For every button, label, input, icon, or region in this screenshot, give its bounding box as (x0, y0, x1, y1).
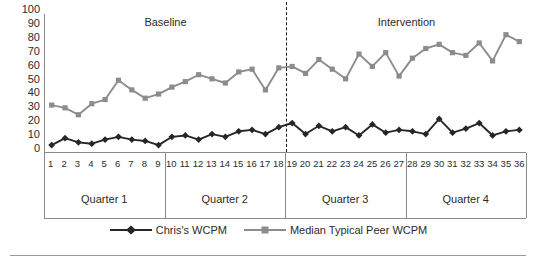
data-point-marker (437, 42, 442, 47)
data-point-marker (128, 136, 135, 143)
y-tick-label: 80 (28, 32, 40, 43)
data-point-marker (209, 76, 214, 81)
data-point-marker (316, 57, 321, 62)
phase-change-line (286, 2, 287, 152)
data-point-marker (490, 58, 495, 63)
data-point-marker (62, 135, 69, 142)
quarter-separator (165, 153, 166, 218)
data-point-marker (48, 142, 55, 149)
data-point-marker (516, 127, 523, 134)
y-tick-label: 90 (28, 18, 40, 29)
data-point-marker (182, 132, 189, 139)
quarter-separator (44, 153, 45, 218)
y-axis: 1009080706050403020100 (8, 9, 40, 159)
data-point-marker (103, 97, 108, 102)
data-point-marker (62, 105, 67, 110)
y-tick-label: 30 (28, 101, 40, 112)
data-point-marker (49, 102, 54, 107)
legend-entry-peer: Median Typical Peer WCPM (243, 224, 427, 236)
data-point-marker (76, 112, 81, 117)
data-point-marker (75, 139, 82, 146)
data-point-marker (356, 51, 361, 56)
data-point-marker (129, 87, 134, 92)
quarter-label: Quarter 4 (443, 193, 489, 205)
data-point-marker (329, 128, 336, 135)
data-point-marker (250, 67, 255, 72)
quarter-label: Quarter 2 (202, 193, 248, 205)
data-point-marker (183, 79, 188, 84)
plot-area: Baseline Intervention (44, 14, 526, 153)
data-point-marker (423, 46, 428, 51)
data-point-marker (343, 76, 348, 81)
legend-label-chris: Chris's WCPM (156, 224, 227, 236)
data-point-marker (156, 91, 161, 96)
data-point-marker (275, 124, 282, 131)
data-point-marker (209, 131, 216, 138)
chart-figure: 1009080706050403020100 Baseline Interven… (0, 0, 536, 264)
legend-label-peer: Median Typical Peer WCPM (290, 224, 427, 236)
data-point-marker (88, 140, 95, 147)
data-point-marker (236, 69, 241, 74)
data-point-marker (196, 72, 201, 77)
phase-label-intervention: Intervention (378, 16, 435, 28)
data-point-marker (142, 138, 149, 145)
quarter-label: Quarter 3 (322, 193, 368, 205)
quarter-separator (285, 153, 286, 218)
data-point-marker (263, 87, 268, 92)
phase-label-baseline: Baseline (144, 16, 186, 28)
data-point-marker (235, 128, 242, 135)
y-tick-label: 50 (28, 74, 40, 85)
data-point-marker (115, 133, 122, 140)
data-point-marker (290, 64, 295, 69)
chart-legend: Chris's WCPM Median Typical Peer WCPM (0, 224, 536, 236)
data-point-marker (409, 128, 416, 135)
quarter-band: Quarter 1Quarter 2Quarter 3Quarter 4 (44, 153, 526, 219)
y-tick-label: 70 (28, 46, 40, 57)
data-point-marker (143, 96, 148, 101)
data-point-marker (517, 39, 522, 44)
y-tick-label: 40 (28, 87, 40, 98)
data-point-marker (503, 128, 510, 135)
quarter-separator (526, 153, 527, 218)
y-tick-label: 0 (34, 143, 40, 154)
data-point-marker (396, 74, 401, 79)
data-point-marker (222, 133, 229, 140)
data-point-marker (330, 67, 335, 72)
data-point-marker (249, 127, 256, 134)
data-point-marker (463, 53, 468, 58)
data-point-marker (462, 125, 469, 132)
y-tick-label: 20 (28, 115, 40, 126)
data-point-marker (477, 40, 482, 45)
data-point-marker (89, 101, 94, 106)
y-tick-label: 60 (28, 60, 40, 71)
data-point-marker (262, 131, 269, 138)
data-point-marker (116, 78, 121, 83)
data-point-marker (169, 85, 174, 90)
data-point-marker (303, 71, 308, 76)
data-point-marker (195, 136, 202, 143)
data-point-marker (503, 32, 508, 37)
y-tick-label: 10 (28, 129, 40, 140)
y-tick-label: 100 (22, 4, 40, 15)
data-point-marker (383, 50, 388, 55)
data-point-marker (396, 127, 403, 134)
legend-swatch-diamond-icon (109, 224, 153, 236)
data-point-marker (102, 136, 109, 143)
legend-swatch-square-icon (243, 224, 287, 236)
data-point-marker (450, 50, 455, 55)
quarter-separator (406, 153, 407, 218)
bottom-divider (10, 255, 526, 256)
quarter-label: Quarter 1 (81, 193, 127, 205)
legend-entry-chris: Chris's WCPM (109, 224, 227, 236)
data-point-marker (223, 80, 228, 85)
data-point-marker (410, 56, 415, 61)
data-point-marker (370, 64, 375, 69)
data-point-marker (276, 65, 281, 70)
